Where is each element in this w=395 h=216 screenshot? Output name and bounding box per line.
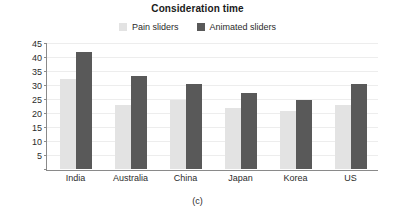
legend-swatch-pain-sliders [119,23,127,31]
y-tick-mark [44,43,47,44]
bar-group: Japan [225,44,257,169]
plot-area: 51015202530354045 IndiaAustraliaChinaJap… [46,44,378,171]
chart-legend: Pain sliders Animated sliders [0,22,395,32]
bar-korea-animated-sliders [296,100,312,169]
y-tick-mark [44,155,47,156]
x-tick-label: China [174,173,198,183]
y-tick-mark [44,127,47,128]
y-tick-label: 40 [32,53,42,63]
bar-groups: IndiaAustraliaChinaJapanKoreaUS [48,44,378,169]
bar-china-pain-sliders [170,100,186,169]
legend-label-pain-sliders: Pain sliders [132,22,179,32]
bar-group: Korea [280,44,312,169]
bar-korea-pain-sliders [280,111,296,169]
figure-consideration-time: Consideration time Pain sliders Animated… [0,0,395,216]
bar-us-animated-sliders [351,84,367,169]
bar-australia-pain-sliders [115,105,131,169]
legend-entry-pain-sliders: Pain sliders [119,22,179,32]
x-tick-label: US [344,173,357,183]
bar-india-animated-sliders [76,52,92,169]
y-tick-mark [44,57,47,58]
bar-australia-animated-sliders [131,76,147,169]
chart-title: Consideration time [0,3,395,14]
bar-group: China [170,44,202,169]
bar-japan-animated-sliders [241,93,257,169]
bar-us-pain-sliders [335,105,351,169]
bar-india-pain-sliders [60,79,76,169]
y-tick-label: 45 [32,39,42,49]
bar-japan-pain-sliders [225,108,241,169]
y-tick-mark [44,99,47,100]
y-tick-mark [44,85,47,86]
y-tick-label: 15 [32,123,42,133]
y-tick-label: 30 [32,81,42,91]
y-tick-mark [44,141,47,142]
x-tick-label: Korea [283,173,307,183]
plot-frame: 51015202530354045 IndiaAustraliaChinaJap… [46,44,378,171]
y-tick-label: 5 [37,151,42,161]
y-tick-mark [44,71,47,72]
bar-china-animated-sliders [186,84,202,169]
legend-entry-animated-sliders: Animated sliders [197,22,277,32]
y-tick-label: 25 [32,95,42,105]
figure-caption: (c) [0,196,395,206]
y-tick-label: 10 [32,137,42,147]
legend-label-animated-sliders: Animated sliders [210,22,277,32]
y-tick-label: 35 [32,67,42,77]
bar-group: India [60,44,92,169]
legend-swatch-animated-sliders [197,23,205,31]
x-tick-label: Japan [228,173,253,183]
bar-group: Australia [115,44,147,169]
y-tick-mark [44,113,47,114]
y-tick-label: 20 [32,109,42,119]
bar-group: US [335,44,367,169]
y-tick-mark [44,169,47,170]
x-tick-label: India [66,173,86,183]
x-tick-label: Australia [113,173,148,183]
